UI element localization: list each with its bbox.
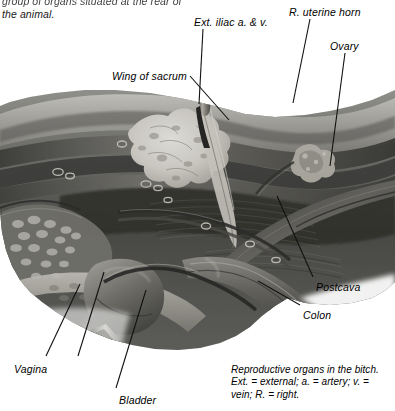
label-postcava: Postcava	[316, 281, 360, 293]
anatomy-photo-svg	[0, 84, 395, 352]
plate-content	[0, 84, 395, 352]
caption-line-3: vein; R. = right.	[231, 389, 394, 401]
caption-line-1: Reproductive organs in the bitch.	[231, 364, 394, 376]
body-text-fragment: group of organs situated at the rear of …	[2, 0, 207, 21]
label-ext-iliac: Ext. iliac a. & v.	[194, 16, 268, 28]
figure-caption: Reproductive organs in the bitch. Ext. =…	[231, 364, 394, 401]
label-wing-of-sacrum: Wing of sacrum	[112, 70, 187, 82]
label-ovary: Ovary	[330, 40, 359, 52]
label-uterine-horn: R. uterine horn	[289, 6, 361, 18]
label-vagina: Vagina	[14, 363, 47, 375]
caption-line-2: Ext. = external; a. = artery; v. =	[231, 376, 394, 388]
label-bladder: Bladder	[119, 394, 156, 406]
anatomy-photograph	[0, 84, 395, 352]
body-text-line-2: the animal.	[2, 8, 207, 21]
body-text-line-1: group of organs situated at the rear of	[2, 0, 207, 8]
label-colon: Colon	[303, 309, 331, 321]
